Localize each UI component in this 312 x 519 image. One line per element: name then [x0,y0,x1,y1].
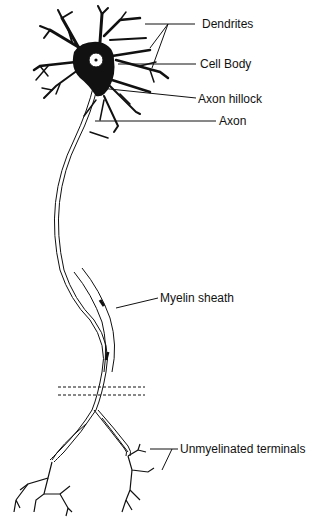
cell-body [73,42,115,97]
label-unmyelinated-terminals: Unmyelinated terminals [180,442,305,456]
label-dendrites: Dendrites [202,17,253,31]
axon-branches [50,410,131,462]
label-axon-hillock: Axon hillock [198,92,262,106]
label-cell-body: Cell Body [200,57,251,71]
leader-lines [95,24,216,470]
nucleolus [94,58,97,61]
label-myelin-sheath: Myelin sheath [160,291,234,305]
label-axon: Axon [219,114,246,128]
axon [54,84,107,410]
terminals [14,444,154,516]
